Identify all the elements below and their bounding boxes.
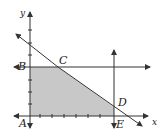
feasible-region-diagram: y x B C D E A <box>0 0 162 134</box>
point-c-label: C <box>59 54 68 67</box>
x-axis-label: x <box>152 117 157 127</box>
shaded-region <box>30 67 114 116</box>
point-e-label: E <box>115 118 124 131</box>
y-axis-label: y <box>19 8 26 18</box>
point-a-label: A <box>18 117 27 130</box>
point-b-label: B <box>17 60 26 73</box>
point-d-label: D <box>117 96 127 109</box>
